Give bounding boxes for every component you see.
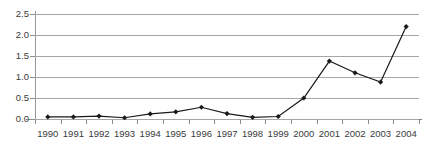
x-axis-tick-label: 1996: [191, 128, 212, 139]
y-axis-tick: [30, 56, 35, 57]
x-axis-tick-label: 1999: [268, 128, 289, 139]
x-axis-tick: [189, 120, 190, 124]
y-axis-tick: [30, 14, 35, 15]
x-axis-tick: [342, 120, 343, 124]
x-axis-tick-label: 1990: [37, 128, 58, 139]
x-axis-tick: [393, 120, 394, 124]
x-axis-tick-label: 1992: [88, 128, 109, 139]
x-axis-tick: [240, 120, 241, 124]
y-axis-tick: [30, 98, 35, 99]
y-axis-tick-label: 2.5: [16, 9, 29, 19]
data-point-marker: [148, 111, 153, 116]
data-point-marker: [378, 79, 383, 84]
x-axis-tick: [291, 120, 292, 124]
data-point-marker: [199, 105, 204, 110]
data-point-marker: [173, 109, 178, 114]
x-axis-tick: [163, 120, 164, 124]
x-axis-tick-label: 1991: [63, 128, 84, 139]
x-axis-tick-label: 1995: [165, 128, 186, 139]
y-axis-tick-label: 1.0: [16, 72, 29, 82]
x-axis-tick: [214, 120, 215, 124]
x-axis-tick-label: 2004: [396, 128, 417, 139]
x-axis-tick-labels: 1990199119921993199419951996199719981999…: [0, 128, 428, 148]
line-chart: 0.00.51.01.52.02.5 199019911992199319941…: [0, 0, 428, 151]
x-axis-tick: [112, 120, 113, 124]
y-axis-tick: [30, 35, 35, 36]
x-axis-tick-label: 2002: [344, 128, 365, 139]
x-axis-tick: [317, 120, 318, 124]
data-point-marker: [224, 111, 229, 116]
data-point-marker: [352, 70, 357, 75]
gridline: [35, 119, 419, 120]
series-polyline: [48, 27, 406, 118]
x-axis-tick: [368, 120, 369, 124]
x-axis-tick-label: 2003: [370, 128, 391, 139]
x-axis-tick: [265, 120, 266, 124]
x-axis-tick-label: 1998: [242, 128, 263, 139]
data-point-marker: [404, 24, 409, 29]
y-axis-tick: [30, 77, 35, 78]
x-axis-tick-label: 2001: [319, 128, 340, 139]
y-axis-tick-label: 1.5: [16, 51, 29, 61]
x-axis-tick-label: 1997: [216, 128, 237, 139]
plot-area: [35, 14, 419, 119]
x-axis-tick: [35, 120, 36, 124]
data-point-marker: [71, 114, 76, 119]
data-series-line: [35, 14, 419, 119]
x-axis-tick-label: 1993: [114, 128, 135, 139]
x-axis-tick: [137, 120, 138, 124]
x-axis-tick: [61, 120, 62, 124]
x-axis-tick: [86, 120, 87, 124]
x-axis-tick-label: 2000: [293, 128, 314, 139]
x-axis-tick: [419, 120, 420, 124]
y-axis-tick-label: 2.0: [16, 30, 29, 40]
data-point-marker: [45, 114, 50, 119]
y-axis-tick-label: 0.5: [16, 93, 29, 103]
x-axis-tick-label: 1994: [140, 128, 161, 139]
data-point-marker: [96, 113, 101, 118]
